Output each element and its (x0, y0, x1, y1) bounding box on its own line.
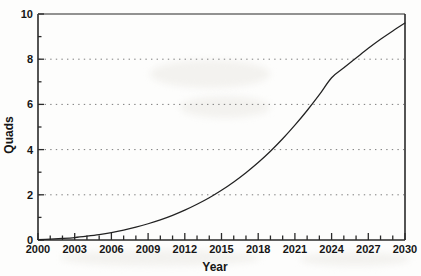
x-tick-label: 2024 (319, 243, 344, 255)
x-tick-label: 2015 (209, 243, 233, 255)
y-axis-ticks (38, 14, 44, 240)
x-tick-label: 2030 (393, 243, 417, 255)
x-tick-label: 2012 (173, 243, 197, 255)
gridlines (39, 59, 404, 195)
y-tick-label: 6 (27, 98, 33, 110)
x-tick-label: 2009 (136, 243, 160, 255)
x-tick-label: 2027 (356, 243, 380, 255)
y-tick-label: 2 (27, 189, 33, 201)
chart-figure: 0246810 20002003200620092012201520182021… (0, 0, 421, 276)
y-tick-label: 10 (21, 8, 33, 20)
y-axis-title: Quads (2, 116, 16, 154)
x-tick-label: 2021 (283, 243, 307, 255)
chart-plot: 0246810 20002003200620092012201520182021… (0, 0, 421, 276)
x-axis-title: Year (202, 260, 228, 274)
y-axis-tick-labels: 0246810 (21, 8, 34, 246)
data-series-line (38, 23, 405, 240)
x-tick-label: 2003 (62, 243, 86, 255)
x-tick-label: 2018 (246, 243, 270, 255)
x-axis-ticks (38, 233, 405, 240)
y-tick-label: 8 (27, 53, 33, 65)
plot-frame (38, 14, 405, 240)
y-tick-label: 4 (27, 144, 34, 156)
x-axis-tick-labels: 2000200320062009201220152018202120242027… (26, 243, 417, 255)
x-tick-label: 2006 (99, 243, 123, 255)
x-tick-label: 2000 (26, 243, 50, 255)
